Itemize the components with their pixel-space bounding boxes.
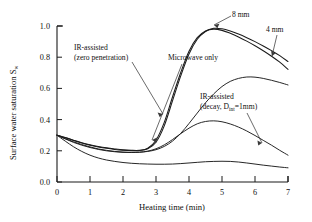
annotation-ir-decay-pre: (decay, D — [200, 102, 230, 111]
annotation-4mm: 4 mm — [266, 25, 284, 56]
y-axis-ticks — [57, 26, 62, 182]
y-tick-label: 0.0 — [40, 178, 50, 187]
annotation-ir-zero-line1: IR-assisted — [74, 43, 108, 52]
x-axis-label: Heating time (min) — [139, 202, 205, 212]
y-tick-label: 1.0 — [40, 22, 50, 31]
chart-figure: Surface water saturation Sw 1.0 0.8 0.6 … — [0, 0, 312, 222]
x-tick-label: 6 — [253, 188, 257, 197]
annotation-ir-decay-line1: IR-assisted — [200, 92, 234, 101]
x-tick-label: 0 — [55, 188, 59, 197]
y-tick-label: 0.8 — [40, 53, 50, 62]
annotation-ir-zero-line2: (zero penetration) — [74, 53, 129, 62]
x-tick-label: 5 — [220, 188, 224, 197]
y-axis-label-text: Surface water saturation S — [8, 69, 18, 160]
leader-line-ir-zero — [132, 62, 163, 114]
leader-line-8mm — [214, 16, 231, 25]
y-tick-labels: 1.0 0.8 0.6 0.4 0.2 0.0 — [40, 22, 50, 187]
leader-line-microwave — [152, 64, 182, 140]
annotation-ir-zero-penetration: IR-assisted (zero penetration) — [74, 43, 163, 117]
annotation-4mm-text: 4 mm — [266, 25, 284, 34]
x-tick-label: 2 — [121, 188, 125, 197]
y-tick-label: 0.2 — [40, 147, 50, 156]
x-tick-label: 1 — [88, 188, 92, 197]
y-tick-label: 0.6 — [40, 84, 50, 93]
annotation-8mm-text: 8 mm — [232, 10, 250, 19]
x-axis-ticks — [57, 176, 288, 182]
chart-svg: Surface water saturation Sw 1.0 0.8 0.6 … — [0, 0, 312, 222]
x-tick-label: 4 — [187, 188, 191, 197]
annotation-ir-decay: IR-assisted (decay, Dint=1mm) — [200, 92, 262, 145]
x-tick-label: 3 — [154, 188, 158, 197]
annotation-ir-decay-post: =1mm) — [235, 102, 258, 111]
y-axis-label: Surface water saturation Sw — [8, 66, 19, 160]
x-tick-label: 7 — [286, 188, 290, 197]
y-tick-label: 0.4 — [40, 116, 50, 125]
annotation-ir-decay-line2: (decay, Dint=1mm) — [200, 102, 258, 112]
y-axis-label-subscript: w — [13, 66, 19, 70]
svg-text:Surface water saturation Sw: Surface water saturation Sw — [8, 66, 19, 160]
annotation-microwave-text: Microwave only — [168, 53, 218, 62]
x-tick-labels: 0 1 2 3 4 5 6 7 — [55, 188, 290, 197]
leader-line-ir-decay — [247, 113, 262, 143]
annotation-8mm: 8 mm — [214, 10, 250, 28]
